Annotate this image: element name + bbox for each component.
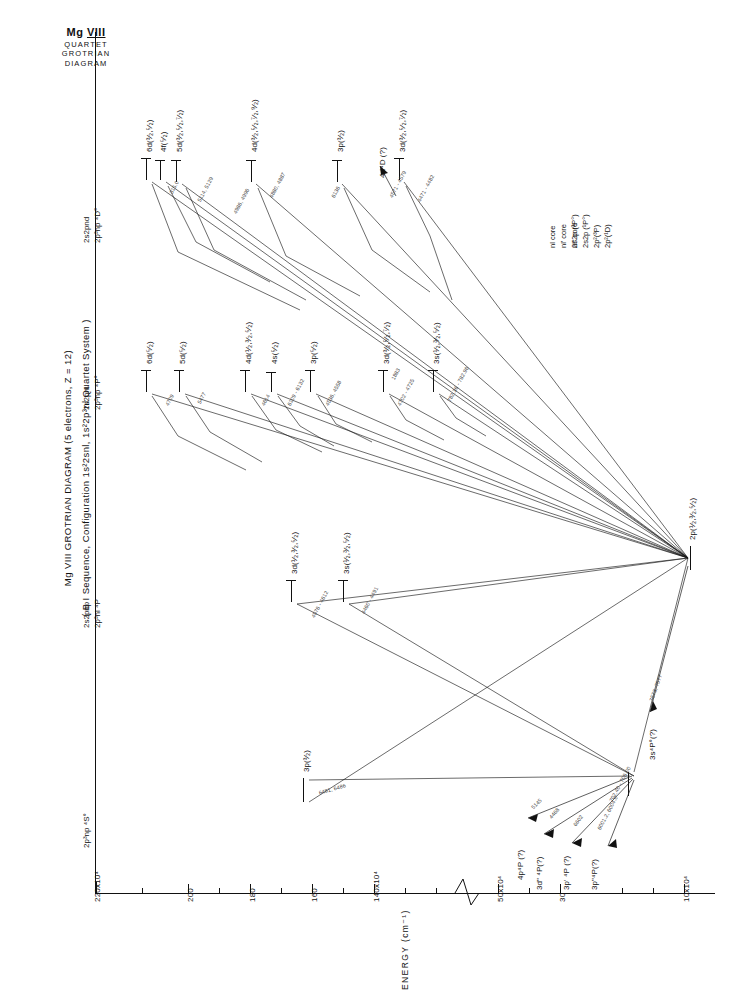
level-label-3d-4P: 3d(¹⁄₂,³⁄₂,⁵⁄₂) <box>290 532 299 574</box>
level-label-6d-4Do: 6d(³⁄₂,⁵⁄₂) <box>145 120 154 152</box>
level-label-2p-ground: 2p(¹⁄₂,³⁄₂,⁵⁄₂) <box>688 498 697 540</box>
level-label-4d-4Po: 4d(¹⁄₂,³⁄₂,⁵⁄₂) <box>244 322 253 364</box>
level-label-3d2-4P: 3d" ⁴P(?) <box>535 857 544 890</box>
level-label-4f-4Do: 4f(⁵⁄₂) <box>159 132 168 152</box>
level-label-3s-4Po-low: 3s⁴P°(?) <box>648 729 657 760</box>
level-label-3s-4Po: 3s(¹⁄₂,³⁄₂,⁵⁄₂) <box>432 322 441 364</box>
level-label-6d-4Po: 6d(⁵⁄₂) <box>145 341 154 364</box>
level-label-3s-4P: 3s(¹⁄₂,³⁄₂,⁵⁄₂) <box>342 532 351 574</box>
level-label-3p1-4P: 3p' ⁴P (?) <box>562 856 571 890</box>
grotrian-diagram-page: Mg VIII QUARTET GROTRIAN DIAGRAM Mg VIII… <box>0 0 732 1002</box>
level-label-5d-4Do: 5d(³⁄₂,⁵⁄₂,⁷⁄₂) <box>175 110 184 152</box>
level-label-3d-4Do: 3d(³⁄₂,⁵⁄₂,⁷⁄₂) <box>398 110 407 152</box>
level-label-5d-4Po: 5d(⁵⁄₂) <box>178 341 187 364</box>
level-label-4d-4Do: 4d(³⁄₂,⁵⁄₂,⁷⁄₂,⁹⁄₂) <box>250 99 259 152</box>
level-label-3p-4So: 3p(³⁄₂) <box>302 750 311 772</box>
level-label-4p-4P: 4p⁴P (?) <box>516 850 525 880</box>
transition-lines <box>0 0 732 1002</box>
level-label-3p2-4P: 3p"⁴P(?) <box>590 859 599 890</box>
level-label-4s-4Po: 4s(⁵⁄₂) <box>270 342 279 364</box>
level-label-3p-4Po: 3p(⁵⁄₂) <box>309 341 318 364</box>
level-label-4dD-4Do: 4d⁴D (?) <box>378 147 387 178</box>
level-label-3d-4Po: 3d(³⁄₂,⁵⁄₂,⁷⁄₂) <box>382 322 391 364</box>
level-label-3p-4Do: 3p(³⁄₂) <box>336 130 345 152</box>
